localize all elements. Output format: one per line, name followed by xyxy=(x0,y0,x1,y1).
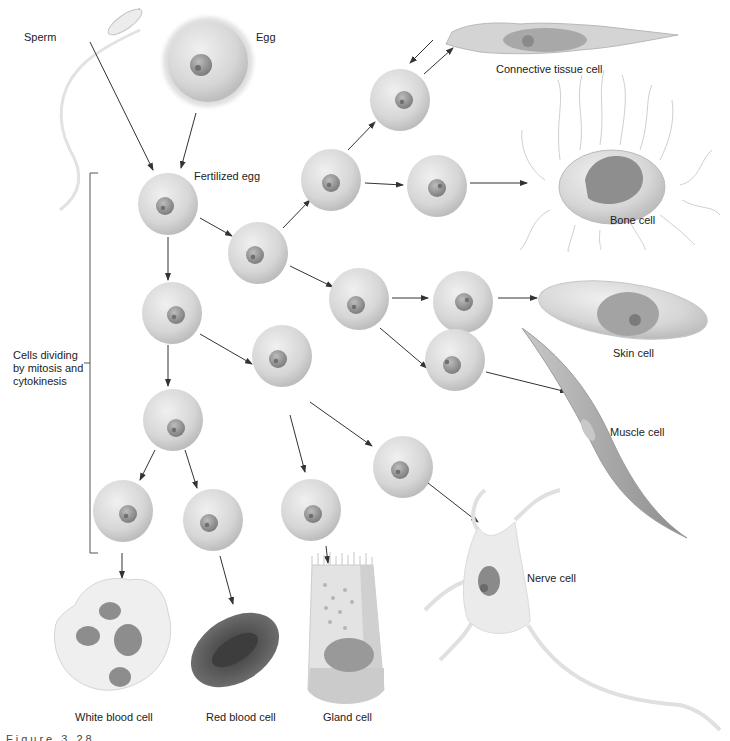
fertilized-egg-label: Fertilized egg xyxy=(194,170,260,183)
fertilized-egg-cell xyxy=(138,173,198,235)
dividing-bracket xyxy=(84,173,98,553)
nerve-cell-label: Nerve cell xyxy=(527,572,576,585)
skin-cell-label: Skin cell xyxy=(613,347,654,360)
dividing-cells xyxy=(93,69,493,551)
nerve-cell xyxy=(425,490,720,730)
figure-caption: Figure 3.28 xyxy=(6,733,95,741)
egg-label: Egg xyxy=(256,31,276,44)
bone-cell-label: Bone cell xyxy=(610,214,655,227)
white-blood-cell xyxy=(54,578,170,690)
muscle-cell-label: Muscle cell xyxy=(610,426,664,439)
connective-tissue-cell xyxy=(446,23,678,54)
dividing-label: Cells dividing by mitosis and cytokinesi… xyxy=(13,349,85,388)
egg-cell xyxy=(163,17,253,107)
sperm-cell xyxy=(60,5,145,210)
connective-tissue-label: Connective tissue cell xyxy=(496,63,602,76)
red-blood-cell-label: Red blood cell xyxy=(206,711,276,724)
arrow xyxy=(181,113,196,168)
arrow xyxy=(90,42,153,170)
red-blood-cell xyxy=(177,597,292,702)
skin-cell xyxy=(535,271,711,348)
cell-differentiation-diagram xyxy=(0,0,730,741)
gland-cell-label: Gland cell xyxy=(323,711,372,724)
sperm-label: Sperm xyxy=(24,31,56,44)
gland-cell xyxy=(308,552,384,704)
white-blood-cell-label: White blood cell xyxy=(75,711,153,724)
